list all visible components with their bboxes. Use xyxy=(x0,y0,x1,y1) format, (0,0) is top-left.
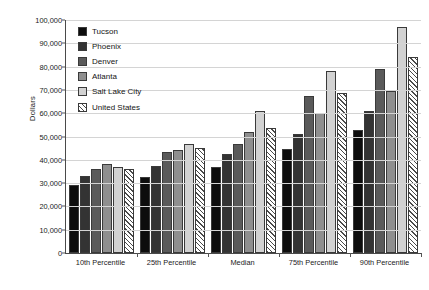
y-axis-tick xyxy=(62,20,65,21)
y-axis-label: 40,000 xyxy=(14,155,62,164)
bar xyxy=(151,166,161,253)
gridline xyxy=(66,160,421,161)
x-axis-label: 75th Percentile xyxy=(289,258,338,267)
y-axis-label: 10,000 xyxy=(14,225,62,234)
y-axis-label: 90,000 xyxy=(14,39,62,48)
x-axis-tick xyxy=(421,253,422,257)
y-axis-tick xyxy=(62,66,65,67)
x-axis-label: 25th Percentile xyxy=(147,258,196,267)
bar xyxy=(397,27,407,253)
x-axis-label: Median xyxy=(230,258,254,267)
y-axis-label: 60,000 xyxy=(14,109,62,118)
legend-label: Phoenix xyxy=(92,42,121,51)
gridline xyxy=(66,20,421,21)
bar xyxy=(375,69,385,253)
gridline xyxy=(66,137,421,138)
bar xyxy=(80,176,90,253)
bar xyxy=(91,169,101,253)
bar xyxy=(113,167,123,253)
gridline xyxy=(66,206,421,207)
legend-item: Salt Lake City xyxy=(78,85,141,99)
gridline xyxy=(66,183,421,184)
legend-label: United States xyxy=(92,103,140,112)
y-axis-tick xyxy=(62,206,65,207)
bar xyxy=(408,57,418,253)
legend-label: Salt Lake City xyxy=(92,87,141,96)
bar xyxy=(195,148,205,253)
legend-label: Denver xyxy=(92,57,118,66)
x-axis-tick xyxy=(279,253,280,257)
legend-label: Atlanta xyxy=(92,72,117,81)
y-axis-tick xyxy=(62,183,65,184)
y-axis-tick-labels: 010,00020,00030,00040,00050,00060,00070,… xyxy=(14,0,62,290)
y-axis-label: 80,000 xyxy=(14,62,62,71)
legend-label: Tucson xyxy=(92,27,118,36)
y-axis-tick xyxy=(62,229,65,230)
legend-swatch xyxy=(78,27,87,36)
y-axis-label: 20,000 xyxy=(14,202,62,211)
legend-item: Atlanta xyxy=(78,70,141,84)
y-axis-tick xyxy=(62,253,65,254)
legend-swatch xyxy=(78,87,87,96)
bar xyxy=(69,185,79,253)
y-axis-tick xyxy=(62,136,65,137)
bar xyxy=(364,111,374,253)
bar-chart: Dollars 010,00020,00030,00040,00050,0006… xyxy=(0,0,429,290)
legend-swatch xyxy=(78,72,87,81)
bar xyxy=(326,71,336,253)
y-axis-label: 70,000 xyxy=(14,85,62,94)
y-axis-label: 100,000 xyxy=(14,16,62,25)
bar xyxy=(266,128,276,253)
y-axis-tick xyxy=(62,159,65,160)
bar xyxy=(255,111,265,253)
y-axis-label: 0 xyxy=(14,249,62,258)
bar xyxy=(282,149,292,253)
legend-item: Phoenix xyxy=(78,39,141,53)
y-axis-label: 50,000 xyxy=(14,132,62,141)
legend-swatch xyxy=(78,42,87,51)
legend-item: Denver xyxy=(78,54,141,68)
y-axis-tick xyxy=(62,43,65,44)
bar xyxy=(162,152,172,253)
bar xyxy=(211,167,221,253)
x-axis-label: 90th Percentile xyxy=(360,258,409,267)
bar xyxy=(293,134,303,253)
bar xyxy=(353,130,363,253)
bar xyxy=(124,169,134,253)
x-axis-label: 10th Percentile xyxy=(76,258,125,267)
x-axis-tick xyxy=(208,253,209,257)
legend-swatch xyxy=(78,103,87,112)
gridline xyxy=(66,230,421,231)
y-axis-label: 30,000 xyxy=(14,179,62,188)
y-axis-tick xyxy=(62,89,65,90)
bar xyxy=(102,164,112,253)
y-axis-tick xyxy=(62,113,65,114)
legend-swatch xyxy=(78,57,87,66)
bar xyxy=(244,132,254,253)
bar xyxy=(140,177,150,253)
bar xyxy=(222,154,232,253)
x-axis-tick-labels: 10th Percentile25th PercentileMedian75th… xyxy=(65,258,420,278)
x-axis-tick xyxy=(137,253,138,257)
x-axis-tick xyxy=(350,253,351,257)
legend-item: Tucson xyxy=(78,24,141,38)
chart-legend: TucsonPhoenixDenverAtlantaSalt Lake City… xyxy=(78,24,141,114)
legend-item: United States xyxy=(78,100,141,114)
bar xyxy=(173,150,183,253)
